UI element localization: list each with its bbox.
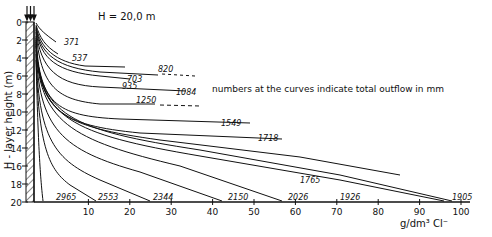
svg-text:2344: 2344 xyxy=(153,193,173,202)
curve-labels: 371 537 703 820 935 1084 1250 1549 1718 … xyxy=(56,38,472,202)
svg-text:2965: 2965 xyxy=(56,193,76,202)
svg-text:1250: 1250 xyxy=(136,96,156,105)
x-tick-label: 50 xyxy=(248,207,260,217)
x-tick-label: 60 xyxy=(290,207,302,217)
y-tick-label: 18 xyxy=(11,180,23,190)
svg-text:1549: 1549 xyxy=(221,119,241,128)
x-tick-label: 70 xyxy=(331,207,343,217)
x-tick-label: 90 xyxy=(414,207,426,217)
svg-text:1926: 1926 xyxy=(340,193,360,202)
x-tick-label: 10 xyxy=(83,207,95,217)
y-tick-label: 20 xyxy=(11,198,23,208)
x-tick-label: 100 xyxy=(452,207,469,217)
inflow-arrows-icon xyxy=(25,6,36,20)
svg-text:1765: 1765 xyxy=(300,176,320,185)
svg-text:2553: 2553 xyxy=(98,193,118,202)
x-tick-label: 20 xyxy=(124,207,136,217)
y-tick-label: 4 xyxy=(16,54,22,64)
svg-text:1084: 1084 xyxy=(176,88,196,97)
x-tick-label: 80 xyxy=(372,207,384,217)
svg-text:537: 537 xyxy=(72,54,88,63)
y-tick-label: 2 xyxy=(16,36,22,46)
x-tick-label: 30 xyxy=(165,207,177,217)
x-tick-label: 40 xyxy=(207,207,219,217)
svg-text:2026: 2026 xyxy=(288,193,308,202)
chart: 102030405060708090100 02468101214161820 … xyxy=(0,0,492,237)
svg-text:371: 371 xyxy=(64,38,79,47)
x-axis-label: g/dm³ Cl⁻ xyxy=(400,218,448,229)
svg-text:1718: 1718 xyxy=(258,134,278,143)
y-axis-label: H - layer height (m) xyxy=(3,71,14,169)
y-tick-label: 8 xyxy=(16,90,22,100)
svg-text:2150: 2150 xyxy=(228,193,248,202)
chart-title: H = 20,0 m xyxy=(98,11,155,22)
svg-text:1905: 1905 xyxy=(452,193,472,202)
curves xyxy=(36,23,452,201)
annotation: numbers at the curves indicate total out… xyxy=(212,84,444,94)
y-tick-label: 0 xyxy=(16,18,22,28)
y-tick-label: 6 xyxy=(16,72,22,82)
svg-text:935: 935 xyxy=(122,82,137,91)
svg-text:820: 820 xyxy=(158,65,173,74)
